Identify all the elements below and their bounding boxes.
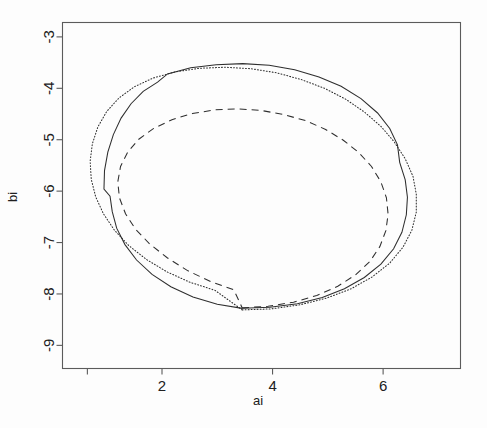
y-axis-title: bi	[5, 192, 20, 202]
plot-frame-rect	[63, 23, 461, 369]
y-tick-label: -5	[40, 133, 57, 146]
plot-root: -9-8-7-6-5-4-3 246 ai bi	[0, 0, 487, 428]
y-tick-label: -6	[40, 184, 57, 197]
x-tick-label: 2	[158, 377, 166, 394]
x-axis-ticks: 246	[87, 369, 387, 394]
contour-curves	[90, 64, 416, 310]
contour-solid	[104, 64, 407, 309]
y-tick-label: -3	[40, 30, 57, 43]
y-tick-label: -8	[40, 287, 57, 300]
plot-frame	[63, 23, 461, 369]
x-tick-label: 6	[379, 377, 387, 394]
x-axis-title: ai	[253, 393, 263, 408]
y-tick-label: -4	[40, 82, 57, 95]
y-tick-label: -7	[40, 236, 57, 249]
y-axis-ticks: -9-8-7-6-5-4-3	[40, 30, 63, 352]
x-tick-label: 4	[268, 377, 276, 394]
y-tick-label: -9	[40, 339, 57, 352]
contour-plot: -9-8-7-6-5-4-3 246 ai bi	[0, 0, 487, 428]
